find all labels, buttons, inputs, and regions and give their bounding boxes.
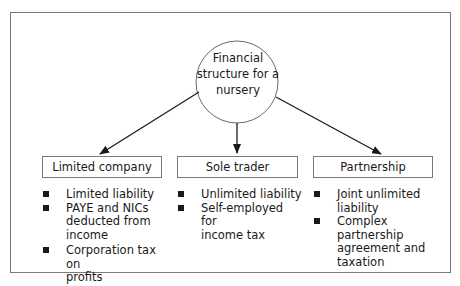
limited-company-title: Limited company bbox=[52, 160, 152, 174]
square-bullet-icon bbox=[314, 191, 320, 197]
limited-company-box: Limited company bbox=[42, 156, 162, 178]
list-item-text: taxation bbox=[337, 256, 438, 270]
list-item-text: Complex bbox=[337, 215, 438, 229]
list-item-text: PAYE and NICs bbox=[66, 202, 167, 216]
center-label-line: nursery bbox=[196, 82, 280, 98]
square-bullet-icon bbox=[43, 205, 49, 211]
list-item-text: liability bbox=[337, 202, 438, 216]
list-item: Self-employed for income tax bbox=[177, 202, 302, 243]
list-item-text: agreement and bbox=[337, 242, 438, 256]
list-item-text: partnership bbox=[337, 229, 438, 243]
center-node-label: Financial structure for a nursery bbox=[196, 50, 280, 98]
list-item-text: income tax bbox=[201, 229, 302, 243]
arrow-to-partnership bbox=[276, 97, 381, 154]
arrow-to-limited-company bbox=[100, 92, 199, 154]
center-label-line: structure for a bbox=[196, 66, 280, 82]
partnership-list: Joint unlimited liability Complex partne… bbox=[313, 188, 438, 269]
list-item: Corporation tax on profits bbox=[42, 244, 167, 285]
list-item-text: Limited liability bbox=[66, 188, 167, 202]
list-item-text: income bbox=[66, 229, 167, 243]
sole-trader-list: Unlimited liability Self-employed for in… bbox=[177, 188, 302, 242]
square-bullet-icon bbox=[178, 205, 184, 211]
list-item: Complex partnership agreement and taxati… bbox=[313, 215, 438, 269]
list-item-text: Self-employed for bbox=[201, 202, 302, 229]
list-item-text: Joint unlimited bbox=[337, 188, 438, 202]
list-item-text: Corporation tax on bbox=[66, 244, 167, 271]
list-item: PAYE and NICs deducted from income bbox=[42, 202, 167, 243]
square-bullet-icon bbox=[178, 191, 184, 197]
list-item-text: deducted from bbox=[66, 215, 167, 229]
sole-trader-title: Sole trader bbox=[206, 160, 270, 174]
limited-company-list: Limited liability PAYE and NICs deducted… bbox=[42, 188, 167, 285]
list-item: Joint unlimited liability bbox=[313, 188, 438, 215]
square-bullet-icon bbox=[43, 247, 49, 253]
list-item-text: profits bbox=[66, 271, 167, 285]
sole-trader-box: Sole trader bbox=[177, 156, 298, 178]
list-item: Limited liability bbox=[42, 188, 167, 202]
list-item-text: Unlimited liability bbox=[201, 188, 302, 202]
square-bullet-icon bbox=[314, 218, 320, 224]
partnership-title: Partnership bbox=[340, 160, 406, 174]
center-label-line: Financial bbox=[196, 50, 280, 66]
partnership-box: Partnership bbox=[313, 156, 433, 178]
list-item: Unlimited liability bbox=[177, 188, 302, 202]
square-bullet-icon bbox=[43, 191, 49, 197]
